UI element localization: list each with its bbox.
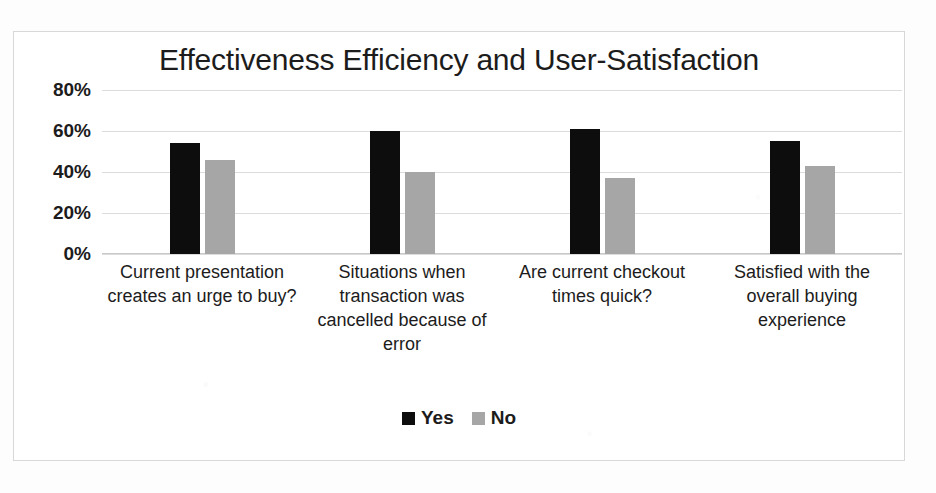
bar-group [702, 90, 902, 254]
category-label: Satisfied with the overall buying experi… [702, 260, 902, 356]
scanned-page: Effectiveness Efficiency and User-Satisf… [0, 0, 936, 493]
y-axis-tick-label: 40% [53, 161, 91, 183]
bar-group [302, 90, 502, 254]
legend-label: Yes [421, 407, 454, 429]
bar-no[interactable] [605, 178, 635, 254]
category-label: Are current checkout times quick? [502, 260, 702, 356]
bar-no[interactable] [805, 166, 835, 254]
legend-item-no[interactable]: No [472, 407, 516, 429]
chart-title: Effectiveness Efficiency and User-Satisf… [14, 43, 904, 77]
bar-no[interactable] [205, 160, 235, 254]
y-axis-tick-label: 80% [53, 79, 91, 101]
bar-yes[interactable] [570, 129, 600, 254]
bar-yes[interactable] [770, 141, 800, 254]
category-axis-labels: Current presentation creates an urge to … [102, 260, 902, 356]
legend-swatch-icon [472, 412, 485, 425]
bar-groups [102, 90, 902, 254]
y-axis-tick-label: 20% [53, 202, 91, 224]
legend-swatch-icon [402, 412, 415, 425]
category-label: Current presentation creates an urge to … [102, 260, 302, 356]
legend-label: No [491, 407, 516, 429]
bar-yes[interactable] [170, 143, 200, 254]
bar-yes[interactable] [370, 131, 400, 254]
gridline [102, 254, 902, 255]
bar-no[interactable] [405, 172, 435, 254]
category-label: Situations when transaction was cancelle… [302, 260, 502, 356]
chart-legend: YesNo [14, 407, 904, 429]
y-axis-tick-label: 60% [53, 120, 91, 142]
bar-group [102, 90, 302, 254]
plot-area: 0%20%40%60%80% [102, 90, 902, 254]
legend-item-yes[interactable]: Yes [402, 407, 454, 429]
chart-frame: Effectiveness Efficiency and User-Satisf… [13, 31, 905, 461]
y-axis-tick-label: 0% [64, 243, 91, 265]
bar-group [502, 90, 702, 254]
